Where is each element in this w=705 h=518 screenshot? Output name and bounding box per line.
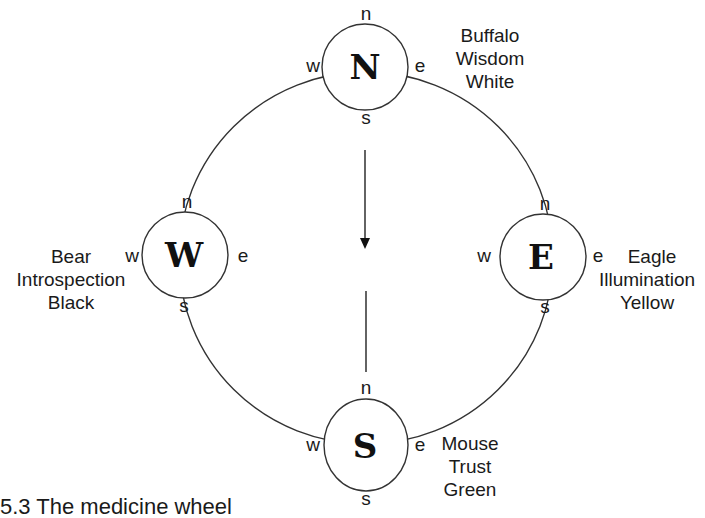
east-station-label: Eagle Illumination Yellow <box>587 245 705 314</box>
east-w-label: w <box>476 245 491 266</box>
south-w-label: w <box>305 434 320 455</box>
north-n-label: n <box>361 3 372 24</box>
west-e-label: e <box>238 245 249 266</box>
station-south: S n w e s <box>305 377 425 509</box>
south-glyph-icon: S <box>353 426 378 466</box>
north-s-label: s <box>361 107 371 128</box>
station-north: N n w e s <box>305 3 425 128</box>
west-glyph-icon: W <box>164 235 204 275</box>
north-animal: Buffalo <box>440 24 540 47</box>
south-station-label: Mouse Trust Green <box>430 432 510 501</box>
figure-caption: 5.3 The medicine wheel <box>0 494 232 518</box>
station-west: W n w e s <box>124 191 248 316</box>
arrow-down-icon <box>360 238 370 249</box>
north-quality: Wisdom <box>440 47 540 70</box>
south-animal: Mouse <box>430 432 510 455</box>
north-glyph-icon: N <box>349 47 380 87</box>
station-east: E n w e s <box>476 193 603 317</box>
south-e-label: e <box>415 434 426 455</box>
east-glyph-icon: E <box>528 237 554 277</box>
east-color: Yellow <box>587 291 705 314</box>
west-n-label: n <box>182 191 193 212</box>
west-s-label: s <box>179 295 189 316</box>
west-quality: Introspection <box>6 268 136 291</box>
east-quality: Illumination <box>587 268 705 291</box>
north-station-label: Buffalo Wisdom White <box>440 24 540 93</box>
east-n-label: n <box>540 193 551 214</box>
south-s-label: s <box>361 488 371 509</box>
west-station-label: Bear Introspection Black <box>6 245 136 314</box>
south-quality: Trust <box>430 455 510 478</box>
east-animal: Eagle <box>587 245 705 268</box>
north-e-label: e <box>415 55 426 76</box>
north-color: White <box>440 70 540 93</box>
north-w-label: w <box>305 55 320 76</box>
south-n-label: n <box>361 377 372 398</box>
west-animal: Bear <box>6 245 136 268</box>
west-color: Black <box>6 291 136 314</box>
south-color: Green <box>430 478 510 501</box>
east-s-label: s <box>540 296 550 317</box>
